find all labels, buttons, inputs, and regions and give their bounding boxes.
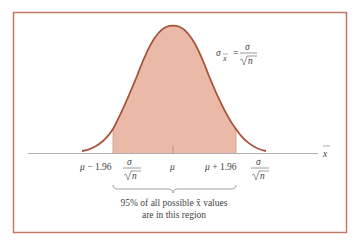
svg-text:x: x	[322, 149, 328, 159]
region-brace	[113, 185, 236, 193]
left-bound-label: μ − 1.96 σ n	[79, 157, 141, 181]
svg-text:σ: σ	[127, 157, 132, 167]
std-error-formula: σ x = σ n	[216, 42, 257, 66]
right-bound-label: μ + 1.96 σ n	[204, 157, 269, 181]
normal-curve-diagram: x σ x = σ n μ − 1.96 σ n μ μ + 1.96 σ n …	[0, 0, 358, 245]
sigma-symbol: σ	[216, 48, 221, 58]
right-bound-prefix: μ + 1.96	[204, 162, 237, 172]
svg-text:σ: σ	[256, 157, 261, 167]
subscript-x: x	[222, 54, 227, 63]
svg-text:n: n	[260, 171, 265, 181]
mean-label: μ	[169, 162, 175, 172]
numerator-sigma: σ	[245, 42, 250, 52]
annotation-line-2: are in this region	[142, 210, 206, 220]
axis-label-xbar: x	[322, 146, 330, 159]
left-bound-prefix: μ − 1.96	[79, 162, 112, 172]
denominator-n: n	[248, 56, 253, 66]
equals-sign: =	[233, 48, 238, 58]
annotation-line-1: 95% of all possible x̄ values	[121, 198, 228, 208]
svg-text:n: n	[132, 171, 137, 181]
